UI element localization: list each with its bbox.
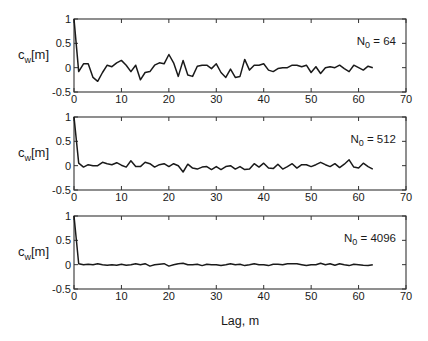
x-tick-label: 60 bbox=[352, 290, 364, 302]
y-tick-label: 0 bbox=[65, 160, 71, 172]
autocorrelation-figure: 010203040506070-0.500.51cw[m]N0 = 640102… bbox=[0, 0, 428, 341]
x-tick-label: 50 bbox=[305, 191, 317, 203]
y-tick-label: 1 bbox=[65, 210, 71, 222]
y-tick-label: 1 bbox=[65, 13, 71, 25]
autocorrelation-line bbox=[74, 216, 373, 266]
x-tick-label: 10 bbox=[115, 191, 127, 203]
x-tick-label: 30 bbox=[210, 93, 222, 105]
x-tick-label: 60 bbox=[352, 93, 364, 105]
plot-frame bbox=[74, 117, 406, 190]
y-tick-label: 0 bbox=[65, 62, 71, 74]
x-tick-label: 10 bbox=[115, 290, 127, 302]
y-tick-label: 1 bbox=[65, 111, 71, 123]
x-tick-label: 0 bbox=[71, 191, 77, 203]
x-tick-label: 0 bbox=[71, 290, 77, 302]
y-tick-label: 0 bbox=[65, 259, 71, 271]
x-tick-label: 30 bbox=[210, 290, 222, 302]
x-tick-label: 70 bbox=[400, 290, 412, 302]
sample-size-annotation: N0 = 4096 bbox=[344, 232, 396, 247]
y-tick-label: -0.5 bbox=[52, 283, 71, 295]
sample-size-annotation: N0 = 512 bbox=[350, 133, 396, 148]
y-tick-label: -0.5 bbox=[52, 86, 71, 98]
y-tick-label: -0.5 bbox=[52, 184, 71, 196]
x-axis-label: Lag, m bbox=[221, 314, 259, 328]
x-tick-label: 50 bbox=[305, 290, 317, 302]
panel-1: 010203040506070-0.500.51cw[m]N0 = 64 bbox=[18, 13, 412, 105]
panel-2: 010203040506070-0.500.51cw[m]N0 = 512 bbox=[18, 111, 412, 203]
x-tick-label: 70 bbox=[400, 191, 412, 203]
y-axis-label: cw[m] bbox=[18, 145, 49, 163]
y-axis-label: cw[m] bbox=[18, 47, 49, 65]
x-tick-label: 30 bbox=[210, 191, 222, 203]
sample-size-annotation: N0 = 64 bbox=[357, 35, 397, 50]
autocorrelation-line bbox=[74, 117, 373, 172]
plot-frame bbox=[74, 19, 406, 92]
x-tick-label: 60 bbox=[352, 191, 364, 203]
y-tick-label: 0.5 bbox=[56, 234, 71, 246]
y-axis-label: cw[m] bbox=[18, 244, 49, 262]
x-tick-label: 10 bbox=[115, 93, 127, 105]
x-tick-label: 0 bbox=[71, 93, 77, 105]
panel-3: 010203040506070-0.500.51cw[m]N0 = 4096 bbox=[18, 210, 412, 302]
autocorrelation-line bbox=[74, 19, 373, 81]
x-tick-label: 70 bbox=[400, 93, 412, 105]
x-tick-label: 40 bbox=[258, 290, 270, 302]
x-tick-label: 40 bbox=[258, 93, 270, 105]
plot-frame bbox=[74, 216, 406, 289]
x-tick-label: 20 bbox=[163, 191, 175, 203]
x-tick-label: 40 bbox=[258, 191, 270, 203]
y-tick-label: 0.5 bbox=[56, 37, 71, 49]
x-tick-label: 50 bbox=[305, 93, 317, 105]
x-tick-label: 20 bbox=[163, 290, 175, 302]
x-tick-label: 20 bbox=[163, 93, 175, 105]
y-tick-label: 0.5 bbox=[56, 135, 71, 147]
